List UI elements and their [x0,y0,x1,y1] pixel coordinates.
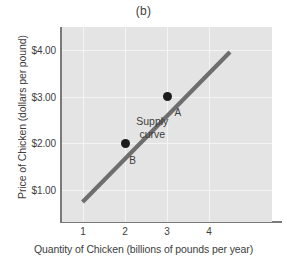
y-axis-title: Price of Chicken (dollars per pound) [16,22,28,212]
y-tick-label: $2.00 [2,138,56,149]
data-point-label-b: B [129,155,136,166]
y-tick-label: $4.00 [2,45,56,56]
supply-curve-annotation: Supplycurve [122,115,182,141]
plot-area: SupplycurveAB [62,27,272,222]
annotation-line: curve [122,128,182,141]
y-axis-tick-labels: $1.00$2.00$3.00$4.00 [0,27,56,222]
x-tick-label: 2 [113,226,137,237]
x-tick-label: 3 [155,226,179,237]
x-axis-title: Quantity of Chicken (billions of pounds … [0,243,287,255]
panel-title: (b) [0,4,287,18]
y-tick-label: $3.00 [2,91,56,102]
data-point-b[interactable] [121,139,130,148]
y-tick-label: $1.00 [2,184,56,195]
supply-curve-figure: (b) SupplycurveAB $1.00$2.00$3.00$4.00 1… [0,0,287,266]
annotation-line: Supply [122,115,182,128]
x-tick-label: 1 [71,226,95,237]
data-point-a[interactable] [163,92,172,101]
x-axis-tick-labels: 1234 [62,226,272,240]
x-tick-label: 4 [197,226,221,237]
data-point-label-a: A [175,107,182,118]
